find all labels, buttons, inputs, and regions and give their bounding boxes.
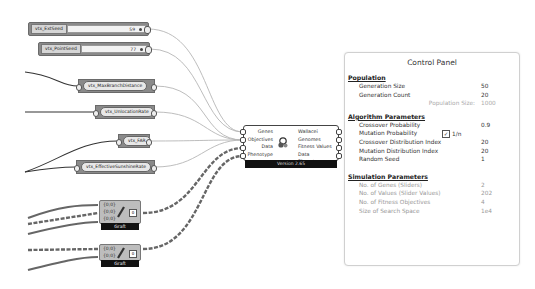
number-slider[interactable]: vtx_ExtSeed 59 [28,22,149,36]
output-fitness-values[interactable]: Fitness Values [298,143,338,151]
graft-icon [116,247,126,259]
output-grip[interactable] [151,110,157,117]
output-grip[interactable] [144,26,151,34]
input-grip[interactable] [240,129,246,135]
section-algorithm: Algorithm Parameters [348,113,519,120]
input-phenotype[interactable]: Phenotype [246,151,273,159]
wire-graft2-to-phenotype [143,156,243,249]
field-label: Crossover Distribution Index [359,139,441,145]
graft-input[interactable]: {0;0} [103,216,116,221]
wire-dashed-graft2-in [28,249,98,250]
mutation-1n-checkbox[interactable]: ✓1/n [442,130,461,138]
row-generation-count: Generation Count 20 [345,92,519,101]
field-label: Population Size: [429,100,475,106]
input-labels: Genes Objectives Data Phenotype [246,128,273,158]
graft-icon [116,206,126,218]
wire-param3-to-objectives [150,140,243,141]
crossover-probability-input[interactable]: 0.9 [481,122,490,128]
generation-count-input[interactable]: 20 [481,92,488,98]
input-data[interactable]: Data [246,143,273,151]
random-seed-input[interactable]: 1 [481,156,485,162]
wire-in-param1 [25,72,78,86]
row-crossover-distribution-index: Crossover Distribution Index 20 [345,139,519,148]
field-label: Crossover Probability [359,122,420,128]
slider-track[interactable]: 77 [81,45,147,53]
field-label: No. of Values (Slider Values) [359,190,441,196]
output-grip[interactable] [336,153,342,159]
graft-input[interactable]: {0;0} [103,202,116,207]
input-grip[interactable] [76,84,82,91]
graft-input[interactable]: {0;0} [103,209,116,214]
graft-component[interactable]: {0;0} {0;0} {0;0} 0 Graft [99,200,141,230]
section-population: Population [348,74,519,81]
field-label: Random Seed [359,156,399,162]
slider-label: vtx_PointSeed [41,44,81,54]
row-search-space: Size of Search Space 1e4 [345,208,519,217]
field-label: Mutation Probability [359,130,417,136]
field-label: Size of Search Space [359,208,420,214]
component-body[interactable]: Genes Objectives Data Phenotype Wallacei… [243,125,339,161]
section-simulation: Simulation Parameters [348,173,519,180]
graft-body[interactable]: {0;0} {0;0} 0 [99,244,141,261]
wire-param2-to-objectives [155,112,243,140]
slider-handle[interactable] [140,48,143,51]
param-label: vtx_UnlocationRate [100,107,154,117]
input-objectives[interactable]: Objectives [246,136,273,144]
row-objectives: No. of Fitness Objectives 4 [345,199,519,208]
slider-handle[interactable] [139,28,142,31]
graft-body[interactable]: {0;0} {0;0} {0;0} 0 [99,200,141,224]
slider-value: 59 [129,27,135,32]
row-mutation-distribution-index: Mutation Distribution Index 20 [345,148,519,157]
field-value: 4 [481,199,485,205]
row-crossover-probability: Crossover Probability 0.9 [345,122,519,131]
field-label: Generation Count [359,92,410,98]
panel-title: Control Panel [345,58,519,70]
input-genes[interactable]: Genes [246,128,273,136]
output-grip[interactable] [151,165,157,172]
number-slider[interactable]: vtx_PointSeed 77 [38,42,150,56]
output-grip[interactable] [145,46,152,54]
output-grip[interactable] [336,129,342,135]
crossover-distribution-input[interactable]: 20 [481,139,488,145]
slider-label: vtx_ExtSeed [31,24,67,34]
param-container[interactable]: vtx_FAR [118,134,150,148]
output-grip[interactable] [151,84,157,91]
graft-component[interactable]: {0;0} {0;0} 0 Graft [99,244,141,266]
param-container[interactable]: vtx_EffectiveSunshineRate [76,160,155,174]
graft-output[interactable]: 0 [129,250,137,258]
param-container[interactable]: vtx_UnlocationRate [95,105,155,119]
param-label: vtx_MaxBranchDistance [83,81,147,91]
row-population-size: Population Size: 1000 [345,100,519,109]
field-label: No. of Genes (Sliders) [359,182,422,188]
slider-track[interactable]: 59 [67,25,146,33]
wallacei-component[interactable]: Genes Objectives Data Phenotype Wallacei… [243,125,339,169]
input-grip[interactable] [74,165,80,172]
generation-size-input[interactable]: 50 [481,83,488,89]
graft-output[interactable]: 0 [129,209,137,217]
output-grip[interactable] [146,139,152,146]
field-value: 202 [481,190,492,196]
input-grip[interactable] [93,110,99,117]
checkbox-label: 1/n [452,131,461,137]
input-grip[interactable] [240,145,246,151]
row-genes: No. of Genes (Sliders) 2 [345,182,519,191]
output-grip[interactable] [336,137,342,143]
field-label: No. of Fitness Objectives [359,199,430,205]
checkmark-icon: ✓ [442,130,450,138]
output-genomes[interactable]: Wallacei Genomes [298,128,338,143]
population-size-value: 1000 [481,100,496,106]
wire-param4-to-objectives [155,140,243,167]
input-grip[interactable] [116,139,122,146]
field-label: Mutation Distribution Index [359,148,438,154]
input-grip[interactable] [240,137,246,143]
graft-input[interactable]: {0;0} [103,246,116,251]
slider-value: 77 [130,47,136,52]
row-generation-size: Generation Size 50 [345,83,519,92]
graft-input[interactable]: {0;0} [103,253,116,258]
mutation-distribution-input[interactable]: 20 [481,148,488,154]
output-data[interactable]: Data [298,151,338,159]
input-grip[interactable] [240,153,246,159]
param-container[interactable]: vtx_MaxBranchDistance [78,79,155,93]
output-grip[interactable] [336,145,342,151]
graft-label: Graft [101,223,139,230]
